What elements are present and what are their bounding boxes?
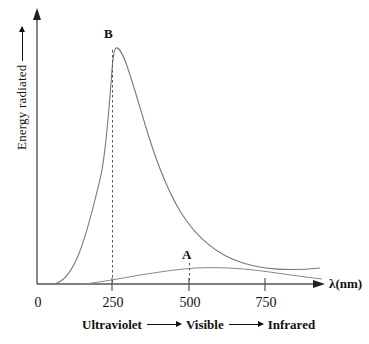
y-axis-title-rotated: Energy radiated xyxy=(14,27,30,150)
xtick-label-250: 250 xyxy=(98,296,128,310)
x-axis-arrowhead xyxy=(313,280,325,288)
y-axis-title-text: Energy radiated xyxy=(14,65,30,150)
blackbody-radiation-chart: B A 0 250 500 750 λ(nm) Energy radiated … xyxy=(0,0,369,344)
x-axis-title: λ(nm) xyxy=(329,277,362,290)
caption-visible: Visible xyxy=(186,318,224,331)
y-axis-title-group: Energy radiated xyxy=(14,150,137,166)
y-axis-title-arrow-icon xyxy=(22,27,23,61)
curve-a-path xyxy=(85,268,322,284)
spectrum-caption: Ultraviolet Visible Infrared xyxy=(82,318,315,331)
xtick-label-0: 0 xyxy=(32,296,44,310)
caption-arrow-2-icon xyxy=(229,324,263,325)
caption-infrared: Infrared xyxy=(268,318,315,331)
xtick-label-750: 750 xyxy=(251,296,281,310)
chart-plot-area xyxy=(0,0,369,344)
y-axis-arrowhead xyxy=(33,8,41,20)
caption-ultraviolet: Ultraviolet xyxy=(82,318,142,331)
xtick-label-500: 500 xyxy=(175,296,205,310)
caption-arrow-1-icon xyxy=(147,324,181,325)
curve-label-b: B xyxy=(104,27,113,40)
curve-label-a: A xyxy=(182,248,191,261)
